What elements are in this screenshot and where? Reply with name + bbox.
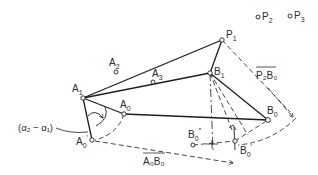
label-a2: A2 bbox=[109, 57, 120, 70]
line-b1-b0prime bbox=[210, 73, 248, 135]
label-segment-a0b0: A₀B₀ bbox=[143, 156, 165, 167]
link-a1-a0 bbox=[83, 98, 124, 114]
label-b0: B0 bbox=[267, 105, 278, 118]
point-a2 bbox=[114, 70, 118, 74]
solid-links bbox=[83, 40, 268, 140]
link-a0-b0 bbox=[124, 114, 268, 120]
label-p3: P3 bbox=[294, 10, 305, 23]
label-b0-prime: B0′ bbox=[240, 143, 253, 158]
linkage-diagram: P1 P2 P3 A1 A2 A3 B1 A0 A0′ B0 B0″ B0′ (… bbox=[0, 0, 318, 175]
line-b0p-b0 bbox=[235, 120, 268, 141]
point-a0 bbox=[122, 112, 126, 116]
label-a0-prime: A0′ bbox=[76, 134, 89, 149]
point-b0-prime bbox=[233, 139, 237, 143]
line-b1-vertical bbox=[210, 73, 213, 150]
point-p2 bbox=[256, 15, 260, 19]
labels: P1 P2 P3 A1 A2 A3 B1 A0 A0′ B0 B0″ B0′ (… bbox=[18, 10, 305, 167]
label-a3: A3 bbox=[152, 68, 163, 81]
point-a1 bbox=[81, 96, 85, 100]
label-p2: P2 bbox=[262, 11, 273, 24]
point-p1 bbox=[220, 38, 224, 42]
point-a0-prime bbox=[90, 138, 94, 142]
link-a1-b1 bbox=[83, 73, 210, 98]
point-a3 bbox=[151, 80, 155, 84]
label-segment-p2b0: P₂B₀ bbox=[256, 70, 277, 81]
arc-a0-a0prime bbox=[95, 114, 124, 140]
label-a1: A1 bbox=[72, 83, 83, 96]
point-b0 bbox=[266, 118, 271, 123]
label-b0-double-prime: B0″ bbox=[188, 127, 202, 142]
point-b1 bbox=[208, 71, 212, 75]
label-a0: A0 bbox=[120, 99, 131, 112]
angle-indicator bbox=[56, 107, 106, 133]
angle-leader bbox=[56, 128, 88, 133]
label-angle: (α₂ − α₁) bbox=[18, 122, 53, 133]
point-p3 bbox=[288, 14, 292, 18]
angle-arc-inner bbox=[88, 112, 103, 118]
label-p1: P1 bbox=[226, 29, 237, 42]
right-angle-mark-1 bbox=[206, 140, 218, 148]
point-b0-double-prime bbox=[191, 143, 195, 147]
